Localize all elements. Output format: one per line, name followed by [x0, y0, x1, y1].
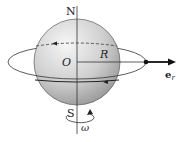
label-center: O — [62, 56, 71, 69]
sphere-rotation-diagram: N S O R er ω — [0, 0, 181, 142]
label-omega: ω — [81, 122, 89, 133]
arrowhead-icon — [87, 109, 93, 115]
label-unit-vector: er — [165, 69, 175, 82]
label-south: S — [67, 107, 75, 120]
arrowhead-icon — [168, 59, 176, 66]
label-radius: R — [99, 48, 108, 61]
label-north: N — [66, 5, 76, 18]
